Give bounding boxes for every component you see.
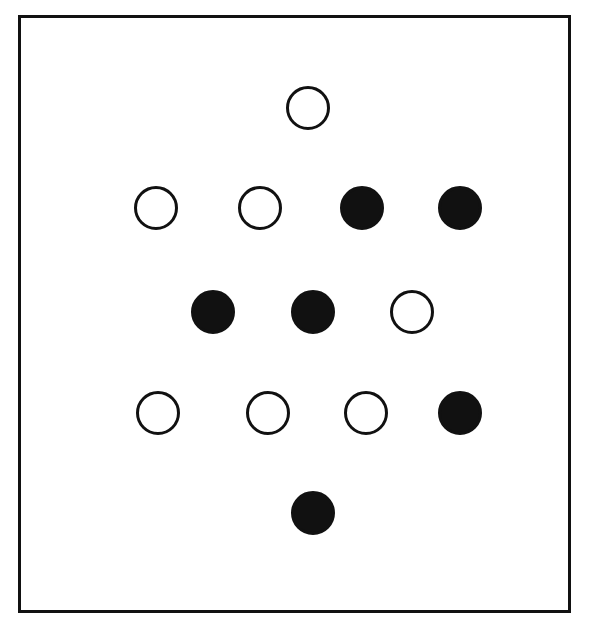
- open-circle-icon: [246, 391, 290, 435]
- open-circle-icon: [344, 391, 388, 435]
- filled-circle-icon: [191, 290, 235, 334]
- filled-circle-icon: [340, 186, 384, 230]
- open-circle-icon: [134, 186, 178, 230]
- filled-circle-icon: [291, 290, 335, 334]
- open-circle-icon: [238, 186, 282, 230]
- filled-circle-icon: [438, 391, 482, 435]
- filled-circle-icon: [291, 491, 335, 535]
- filled-circle-icon: [438, 186, 482, 230]
- open-circle-icon: [136, 391, 180, 435]
- open-circle-icon: [286, 86, 330, 130]
- open-circle-icon: [390, 290, 434, 334]
